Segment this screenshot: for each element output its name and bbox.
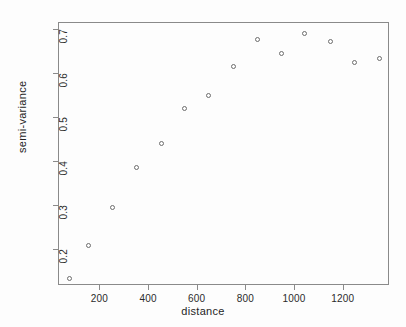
data-point xyxy=(134,165,139,170)
data-point xyxy=(67,276,72,281)
y-axis-tick-label: 0.5 xyxy=(58,117,69,132)
x-axis-tick-label: 800 xyxy=(237,293,254,304)
data-point xyxy=(328,39,333,44)
y-axis-tick-label: 0.3 xyxy=(58,205,69,220)
x-axis-tick-label: 400 xyxy=(139,293,156,304)
x-axis-tick xyxy=(343,285,344,290)
x-axis-label: distance xyxy=(0,305,406,317)
plot-frame xyxy=(58,22,389,285)
data-point xyxy=(279,51,284,56)
data-point xyxy=(86,243,91,248)
x-axis-tick xyxy=(245,285,246,290)
data-point xyxy=(206,93,211,98)
data-point xyxy=(231,64,236,69)
y-axis-tick-label: 0.4 xyxy=(58,161,69,176)
x-axis-tick-label: 1000 xyxy=(283,293,306,304)
x-axis-tick xyxy=(294,285,295,290)
plot-data-area xyxy=(59,23,388,284)
data-point xyxy=(377,56,382,61)
data-point xyxy=(255,37,260,42)
data-point xyxy=(352,60,357,65)
data-point xyxy=(110,205,115,210)
y-axis-tick-label: 0.2 xyxy=(58,249,69,264)
y-axis-tick-label: 0.6 xyxy=(58,73,69,88)
x-axis-tick xyxy=(148,285,149,290)
x-axis-tick-label: 1200 xyxy=(331,293,354,304)
data-point xyxy=(159,141,164,146)
variogram-plot-screenshot: 20040060080010001200 0.20.30.40.50.60.7 … xyxy=(0,0,406,327)
x-axis-tick xyxy=(197,285,198,290)
data-point xyxy=(182,106,187,111)
x-axis-tick-label: 200 xyxy=(91,293,108,304)
x-axis-tick xyxy=(99,285,100,290)
y-axis-tick-label: 0.7 xyxy=(58,29,69,44)
data-point xyxy=(302,31,307,36)
x-axis-tick-label: 600 xyxy=(188,293,205,304)
y-axis-label: semi-variance xyxy=(16,81,28,153)
